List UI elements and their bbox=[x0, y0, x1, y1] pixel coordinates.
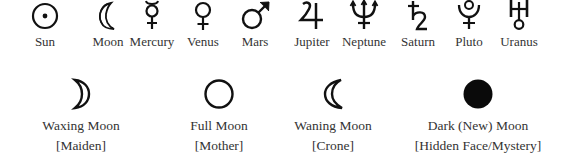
moon-phase-dark: Dark (New) Moon [Hidden Face/Mystery] bbox=[415, 116, 541, 156]
moon-phase-name: Waxing Moon bbox=[42, 116, 119, 136]
saturn-icon bbox=[406, 0, 430, 31]
planet-label-moon: Moon bbox=[92, 34, 123, 50]
pluto-icon bbox=[456, 0, 482, 31]
moon-phase-waning: Waning Moon [Crone] bbox=[294, 116, 371, 156]
crescent-moon-icon bbox=[93, 1, 123, 31]
planet-label-venus: Venus bbox=[187, 34, 219, 50]
moon-phase-aspect: [Crone] bbox=[294, 136, 371, 156]
mercury-icon bbox=[142, 0, 162, 31]
moon-phase-aspect: [Mother] bbox=[190, 136, 247, 156]
sun-icon bbox=[31, 2, 59, 30]
planet-label-mars: Mars bbox=[242, 34, 269, 50]
mars-icon bbox=[240, 1, 272, 31]
venus-icon bbox=[193, 1, 213, 31]
planet-label-jupiter: Jupiter bbox=[294, 34, 329, 50]
dark-moon-icon bbox=[463, 79, 493, 109]
planet-label-mercury: Mercury bbox=[130, 34, 175, 50]
moon-phase-aspect: [Hidden Face/Mystery] bbox=[415, 136, 541, 156]
moon-phase-name: Waning Moon bbox=[294, 116, 371, 136]
planet-label-neptune: Neptune bbox=[342, 34, 386, 50]
planet-label-uranus: Uranus bbox=[500, 34, 538, 50]
planet-label-pluto: Pluto bbox=[455, 34, 482, 50]
planet-label-saturn: Saturn bbox=[401, 34, 435, 50]
planet-label-sun: Sun bbox=[35, 34, 55, 50]
uranus-icon bbox=[507, 0, 531, 31]
waning-moon-icon bbox=[322, 79, 344, 109]
moon-phase-full: Full Moon [Mother] bbox=[190, 116, 247, 156]
moon-phase-aspect: [Maiden] bbox=[42, 136, 119, 156]
moon-phase-waxing: Waxing Moon [Maiden] bbox=[42, 116, 119, 156]
jupiter-icon bbox=[298, 0, 326, 31]
neptune-icon bbox=[350, 0, 378, 31]
waxing-moon-icon bbox=[72, 79, 92, 109]
moon-phase-name: Dark (New) Moon bbox=[415, 116, 541, 136]
moon-phase-name: Full Moon bbox=[190, 116, 247, 136]
full-moon-icon bbox=[204, 79, 234, 109]
